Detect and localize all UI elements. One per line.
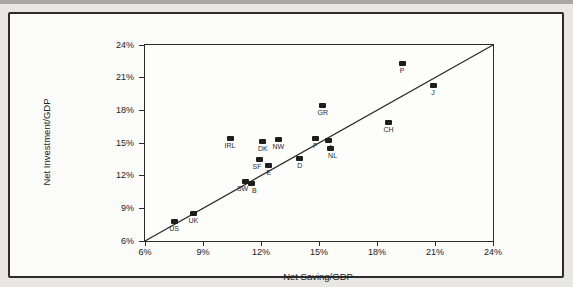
x-tick-label: 21% — [420, 247, 450, 258]
y-tick-label: 12% — [104, 170, 134, 181]
x-tick-mark — [377, 241, 378, 246]
data-point-label: B — [244, 187, 264, 195]
y-axis-title: Net Investment/GDP — [41, 82, 53, 202]
y-tick-mark — [139, 175, 144, 176]
x-tick-mark — [435, 241, 436, 246]
data-point-marker — [275, 137, 282, 142]
page-root: Net Investment/GDP Net Saving/GDP 6%9%12… — [0, 0, 573, 287]
y-tick-label: 24% — [104, 40, 134, 51]
data-point-label: CH — [379, 126, 399, 134]
data-point-label: E — [259, 169, 279, 177]
data-point-label: GR — [313, 109, 333, 117]
x-tick-label: 12% — [246, 247, 276, 258]
x-axis-title: Net Saving/GDP — [238, 271, 398, 283]
data-point-label: NW — [268, 143, 288, 151]
data-point-marker — [319, 103, 326, 108]
data-point-marker — [430, 83, 437, 88]
data-point-marker — [227, 136, 234, 141]
y-tick-label: 15% — [104, 138, 134, 149]
data-point-marker — [327, 146, 334, 151]
data-point-marker — [265, 163, 272, 168]
data-point-label: P — [392, 67, 412, 75]
data-point-marker — [325, 138, 332, 143]
y-tick-label: 6% — [104, 236, 134, 247]
y-tick-label: 21% — [104, 72, 134, 83]
y-tick-mark — [139, 77, 144, 78]
plot-area: 6%9%12%15%18%21%24%6%9%12%15%18%21%24% U… — [144, 44, 494, 242]
y-tick-mark — [139, 110, 144, 111]
y-tick-mark — [139, 143, 144, 144]
data-point-marker — [399, 61, 406, 66]
x-tick-mark — [493, 241, 494, 246]
data-point-marker — [171, 219, 178, 224]
x-tick-label: 24% — [478, 247, 508, 258]
y-tick-mark — [139, 208, 144, 209]
y-tick-label: 18% — [104, 105, 134, 116]
x-tick-mark — [145, 241, 146, 246]
data-point-marker — [248, 181, 255, 186]
y-tick-label: 9% — [104, 203, 134, 214]
data-point-marker — [256, 157, 263, 162]
y-tick-mark — [139, 241, 144, 242]
data-point-marker — [259, 139, 266, 144]
x-tick-label: 6% — [130, 247, 160, 258]
x-tick-label: 18% — [362, 247, 392, 258]
x-tick-label: 15% — [304, 247, 334, 258]
x-tick-label: 9% — [188, 247, 218, 258]
data-point-marker — [190, 211, 197, 216]
data-point-label: J — [423, 89, 443, 97]
data-point-label: IRL — [220, 142, 240, 150]
data-point-label: D — [290, 162, 310, 170]
x-tick-mark — [319, 241, 320, 246]
data-point-label: US — [164, 225, 184, 233]
data-point-label: NL — [323, 152, 343, 160]
data-point-marker — [312, 136, 319, 141]
data-point-marker — [385, 120, 392, 125]
page-top-edge — [0, 0, 573, 4]
figure-panel: Net Investment/GDP Net Saving/GDP 6%9%12… — [8, 12, 564, 278]
y-tick-mark — [139, 45, 144, 46]
data-point-label: UK — [183, 217, 203, 225]
x-tick-mark — [261, 241, 262, 246]
x-tick-mark — [203, 241, 204, 246]
data-point-marker — [296, 156, 303, 161]
